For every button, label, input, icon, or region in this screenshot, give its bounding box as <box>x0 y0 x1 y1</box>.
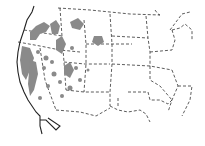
range-map <box>0 0 205 146</box>
map-canvas <box>0 0 205 146</box>
mexico-border-line <box>40 118 60 130</box>
species-range-areas <box>20 18 104 100</box>
canada-border <box>58 8 160 15</box>
